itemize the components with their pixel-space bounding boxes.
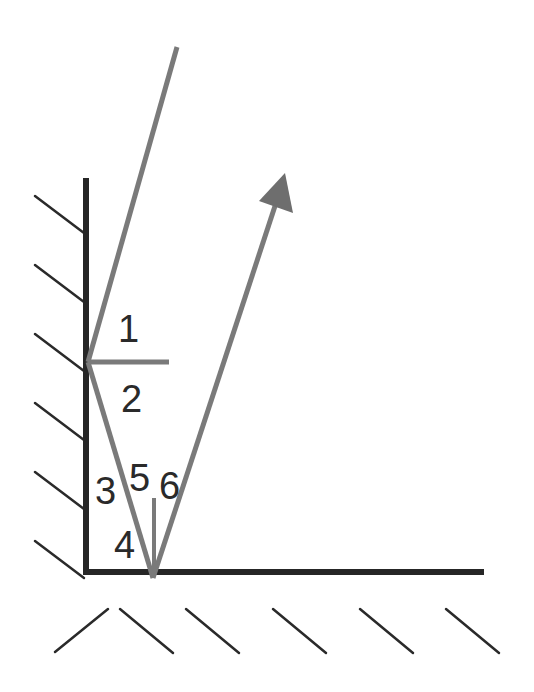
- hatch-mark: [55, 609, 108, 652]
- hatch-mark: [446, 609, 499, 653]
- horizontal-mirror-hatching: [55, 609, 499, 653]
- angle-label-2: 2: [121, 378, 142, 420]
- vertical-mirror-hatching: [35, 196, 84, 578]
- arrowhead-icon: [259, 173, 293, 213]
- angle-label-3: 3: [95, 470, 116, 512]
- angle-label-4: 4: [114, 524, 135, 566]
- hatch-mark: [273, 609, 326, 653]
- hatch-mark: [35, 265, 84, 302]
- hatch-mark: [35, 196, 84, 233]
- hatch-mark: [120, 609, 173, 653]
- hatch-mark: [35, 541, 84, 578]
- reflection-diagram: 1 2 3 5 6 4: [0, 0, 534, 692]
- angle-label-5: 5: [129, 457, 150, 499]
- hatch-mark: [360, 609, 413, 653]
- hatch-mark: [186, 609, 239, 653]
- angle-label-6: 6: [159, 465, 180, 507]
- hatch-mark: [35, 334, 84, 371]
- hatch-mark: [35, 472, 84, 509]
- outgoing-ray: [153, 203, 276, 578]
- hatch-mark: [35, 403, 84, 440]
- angle-label-1: 1: [118, 308, 139, 350]
